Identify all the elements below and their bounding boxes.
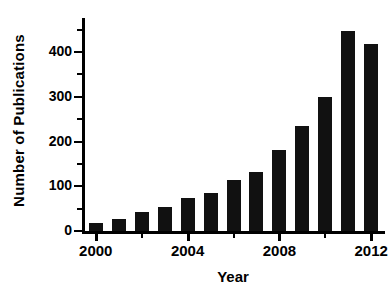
bar xyxy=(341,31,355,231)
y-axis-tick xyxy=(74,96,82,98)
y-axis-tick xyxy=(74,230,82,232)
x-axis-tick-label: 2004 xyxy=(158,242,218,259)
y-axis-tick-label: 100 xyxy=(32,178,72,192)
x-axis-minor-tick xyxy=(233,234,235,238)
y-axis-tick-label-text: 300 xyxy=(34,89,72,103)
x-axis-minor-tick xyxy=(324,234,326,238)
y-axis-tick-label: 300 xyxy=(32,89,72,103)
y-axis-tick xyxy=(74,185,82,187)
y-axis-label: Number of Publications xyxy=(0,0,36,240)
x-axis-tick-label: 2000 xyxy=(66,242,126,259)
publications-bar-chart: Number of Publications 0100200300400 200… xyxy=(0,0,391,298)
bar xyxy=(135,212,149,231)
y-axis-tick-label-text: 400 xyxy=(34,44,72,58)
x-axis-minor-tick xyxy=(141,234,143,238)
y-axis-tick-label: 0 xyxy=(32,223,72,237)
x-axis-label: Year xyxy=(78,268,388,285)
bars-container xyxy=(82,18,385,231)
y-axis-tick xyxy=(74,141,82,143)
bar xyxy=(364,44,378,231)
y-axis-tick-label-text: 200 xyxy=(34,134,72,148)
x-axis-tick xyxy=(370,234,373,241)
x-axis-tick-label: 2008 xyxy=(249,242,309,259)
x-axis-tick-label: 2012 xyxy=(341,242,391,259)
bar xyxy=(158,207,172,231)
x-axis-tick xyxy=(187,234,190,241)
bar xyxy=(89,223,103,231)
x-axis-tick xyxy=(95,234,98,241)
bar xyxy=(181,198,195,231)
y-axis-tick-label: 400 xyxy=(32,44,72,58)
bar xyxy=(249,172,263,231)
bar xyxy=(227,180,241,231)
bar xyxy=(272,150,286,231)
x-axis-tick xyxy=(278,234,281,241)
y-axis-tick-label-text: 100 xyxy=(34,178,72,192)
y-axis-label-text: Number of Publications xyxy=(10,34,27,207)
bar xyxy=(295,126,309,231)
y-axis-tick-label-text: 0 xyxy=(34,223,72,237)
bar xyxy=(318,97,332,231)
bar xyxy=(204,193,218,231)
y-axis-tick xyxy=(74,51,82,53)
bar xyxy=(112,219,126,231)
y-axis-tick-label: 200 xyxy=(32,134,72,148)
